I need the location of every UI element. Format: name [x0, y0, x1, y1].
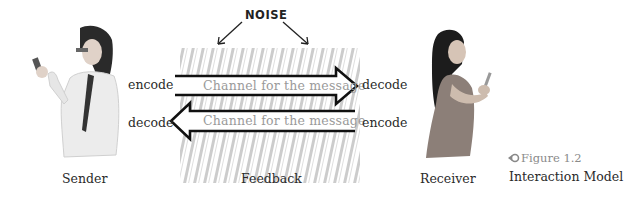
- sender-figure: [32, 26, 119, 157]
- sender-encode-label: encode: [128, 77, 173, 92]
- figure-title: Interaction Model: [509, 169, 623, 184]
- receiver-figure: [426, 30, 492, 158]
- channel-label-top: Channel for the message: [203, 78, 366, 93]
- feedback-caption: Feedback: [241, 171, 302, 186]
- receiver-caption: Receiver: [420, 171, 476, 186]
- sender-caption: Sender: [62, 171, 107, 186]
- figure-number: Figure 1.2: [521, 151, 582, 165]
- diagram-canvas: [0, 0, 626, 197]
- receiver-decode-label: decode: [362, 77, 407, 92]
- figure-pointer-icon: [508, 155, 519, 162]
- channel-label-bottom: Channel for the message: [203, 113, 366, 128]
- noise-label: NOISE: [245, 8, 287, 22]
- receiver-encode-label: encode: [362, 115, 407, 130]
- noise-arrows: [218, 22, 308, 44]
- sender-decode-label: decode: [128, 115, 173, 130]
